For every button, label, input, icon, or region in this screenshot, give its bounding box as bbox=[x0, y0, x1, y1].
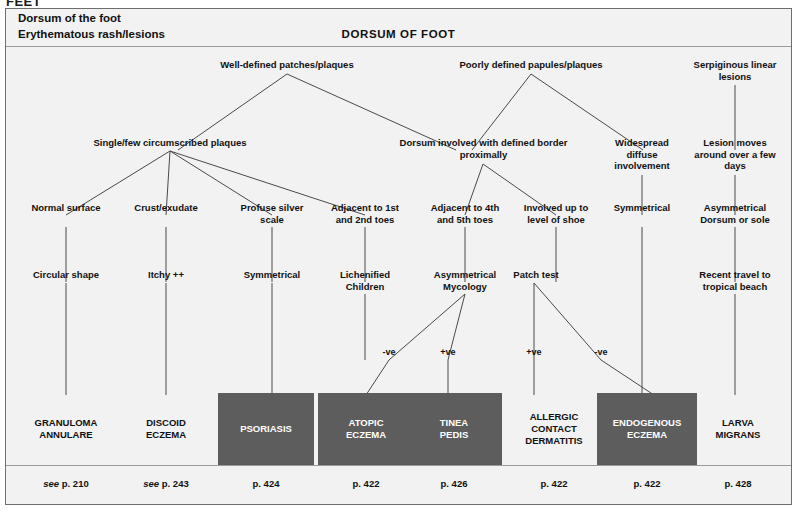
tag-patch-test-positive: +ve bbox=[519, 347, 549, 357]
tag-patch-test-negative: -ve bbox=[586, 347, 616, 357]
diagnosis-endogenous-eczema[interactable]: ENDOGENOUS ECZEMA bbox=[597, 393, 697, 465]
diagnosis-psoriasis[interactable]: PSORIASIS bbox=[218, 393, 314, 465]
header-line-region: Dorsum of the foot bbox=[18, 12, 121, 24]
diagnosis-discoid-eczema[interactable]: DISCOID ECZEMA bbox=[118, 393, 214, 465]
node-single-few-circumscribed-plaques: Single/few circumscribed plaques bbox=[64, 137, 276, 149]
page-ref-discoid-eczema[interactable]: see p. 243 bbox=[118, 478, 214, 489]
flowchart-page: FEET Dorsum of the foot Erythematous ras… bbox=[0, 0, 799, 514]
chart-header: Dorsum of the foot Erythematous rash/les… bbox=[6, 9, 791, 47]
node-involved-level-of-shoe: Involved up to level of shoe bbox=[506, 202, 606, 225]
page-ref-number: p. 422 bbox=[353, 478, 380, 489]
node-recent-travel-tropical-beach: Recent travel to tropical beach bbox=[680, 269, 790, 292]
diagnosis-atopic-eczema[interactable]: ATOPIC ECZEMA bbox=[318, 393, 414, 465]
diagnosis-tinea-pedis[interactable]: TINEA PEDIS bbox=[406, 393, 502, 465]
page-ref-number: p. 428 bbox=[725, 478, 752, 489]
page-ref-number: p. 243 bbox=[162, 478, 189, 489]
chart-title: DORSUM OF FOOT bbox=[6, 28, 791, 40]
node-patch-test: Patch test bbox=[486, 269, 586, 281]
node-symmetrical-lower: Symmetrical bbox=[222, 269, 322, 281]
page-ref-larva-migrans[interactable]: p. 428 bbox=[690, 478, 786, 489]
node-adjacent-1st-2nd-toes: Adjacent to 1st and 2nd toes bbox=[315, 202, 415, 225]
node-adjacent-4th-5th-toes: Adjacent to 4th and 5th toes bbox=[415, 202, 515, 225]
page-ref-granuloma-annulare[interactable]: see p. 210 bbox=[18, 478, 114, 489]
page-ref-tinea-pedis[interactable]: p. 426 bbox=[406, 478, 502, 489]
tag-mycology-positive: +ve bbox=[433, 347, 463, 357]
page-ref-see-prefix: see bbox=[43, 478, 62, 489]
page-reference-strip: see p. 210 see p. 243 p. 424 p. 422 p. 4… bbox=[6, 465, 791, 504]
node-serpiginous-linear-lesions: Serpiginous linear lesions bbox=[678, 59, 792, 82]
node-widespread-diffuse-involvement: Widespread diffuse involvement bbox=[596, 137, 688, 172]
diagnosis-granuloma-annulare[interactable]: GRANULOMA ANNULARE bbox=[18, 393, 114, 465]
chart-canvas: Well-defined patches/plaques Poorly defi… bbox=[6, 47, 791, 504]
node-lichenified-children: Lichenified Children bbox=[315, 269, 415, 292]
page-ref-number: p. 422 bbox=[634, 478, 661, 489]
node-circular-shape: Circular shape bbox=[16, 269, 116, 281]
chart-frame: Dorsum of the foot Erythematous rash/les… bbox=[5, 8, 792, 505]
node-symmetrical-upper: Symmetrical bbox=[594, 202, 690, 214]
node-crust-exudate: Crust/exudate bbox=[116, 202, 216, 214]
page-ref-number: p. 422 bbox=[541, 478, 568, 489]
node-normal-surface: Normal surface bbox=[16, 202, 116, 214]
page-ref-atopic-eczema[interactable]: p. 422 bbox=[318, 478, 414, 489]
page-ref-psoriasis[interactable]: p. 424 bbox=[218, 478, 314, 489]
node-poorly-defined-papules: Poorly defined papules/plaques bbox=[431, 59, 631, 71]
page-ref-number: p. 426 bbox=[441, 478, 468, 489]
node-dorsum-involved-defined-border: Dorsum involved with defined border prox… bbox=[366, 137, 601, 160]
diagnosis-allergic-contact-dermatitis[interactable]: ALLERGIC CONTACT DERMATITIS bbox=[504, 393, 604, 465]
node-lesion-moves-around: Lesion moves around over a few days bbox=[679, 137, 791, 172]
page-ref-endogenous-eczema[interactable]: p. 422 bbox=[597, 478, 697, 489]
page-ref-number: p. 424 bbox=[253, 478, 280, 489]
node-profuse-silver-scale: Profuse silver scale bbox=[224, 202, 320, 225]
node-well-defined-patches: Well-defined patches/plaques bbox=[192, 59, 382, 71]
diagnosis-larva-migrans[interactable]: LARVA MIGRANS bbox=[690, 393, 786, 465]
tag-mycology-negative: -ve bbox=[374, 347, 404, 357]
node-itchy: Itchy ++ bbox=[116, 269, 216, 281]
page-ref-allergic-contact-dermatitis[interactable]: p. 422 bbox=[504, 478, 604, 489]
page-ref-number: p. 210 bbox=[62, 478, 89, 489]
node-asymmetrical-dorsum-or-sole: Asymmetrical Dorsum or sole bbox=[680, 202, 790, 225]
page-ref-see-prefix: see bbox=[143, 478, 162, 489]
